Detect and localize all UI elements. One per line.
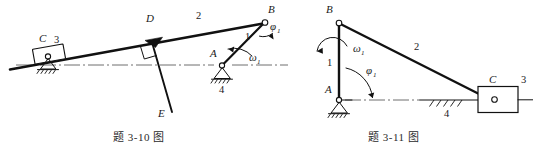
left-label-b: B bbox=[268, 3, 275, 15]
left-label-link-2: 2 bbox=[196, 10, 201, 21]
left-label-c: C bbox=[39, 32, 47, 44]
right-label-omega1: ω 1 bbox=[353, 42, 365, 57]
mechanism-diagram-canvas: C 3 D 2 B 1 A 4 E ω 1 φ 1 bbox=[0, 0, 533, 160]
left-omega-arrowhead bbox=[229, 47, 235, 53]
right-label-a: A bbox=[324, 83, 332, 95]
left-support-triangle-a bbox=[214, 68, 230, 79]
right-mechanism-group: B 1 2 A C 3 4 ω 1 φ 1 bbox=[317, 3, 533, 119]
left-label-link-4: 4 bbox=[219, 84, 225, 95]
right-link-2-rod bbox=[340, 24, 490, 100]
left-label-e: E bbox=[157, 107, 165, 119]
left-ground-hatch-c bbox=[37, 70, 56, 74]
right-joint-c-pin bbox=[492, 97, 498, 103]
left-ground-hatch-a bbox=[211, 79, 230, 83]
right-label-link-1: 1 bbox=[327, 57, 332, 68]
right-ground-hatch-frame bbox=[430, 100, 463, 107]
left-joint-b-pin bbox=[262, 20, 268, 26]
right-support-triangle-a bbox=[331, 103, 347, 114]
right-joint-b-pin bbox=[336, 20, 342, 26]
right-label-b: B bbox=[326, 3, 333, 15]
right-label-phi1: φ 1 bbox=[366, 64, 377, 79]
right-label-c: C bbox=[489, 73, 497, 85]
right-label-link-2: 2 bbox=[414, 41, 419, 52]
caption-right-figure: 题 3-11 图 bbox=[368, 128, 419, 144]
left-label-a: A bbox=[209, 47, 217, 59]
caption-left-figure: 题 3-10 图 bbox=[113, 128, 165, 144]
svg-text:1: 1 bbox=[373, 71, 377, 79]
svg-text:ω: ω bbox=[353, 42, 361, 54]
left-link-de bbox=[153, 44, 173, 112]
svg-text:φ: φ bbox=[270, 20, 276, 32]
svg-text:1: 1 bbox=[361, 49, 365, 57]
svg-text:1: 1 bbox=[277, 27, 281, 35]
left-label-d: D bbox=[145, 12, 154, 24]
left-mechanism-group: C 3 D 2 B 1 A 4 E ω 1 φ 1 bbox=[10, 3, 288, 119]
right-label-link-4: 4 bbox=[444, 108, 450, 119]
right-slider-block-c bbox=[478, 87, 518, 113]
left-label-phi1: φ 1 bbox=[270, 20, 281, 35]
right-label-link-3: 3 bbox=[521, 74, 526, 85]
left-label-link-1: 1 bbox=[245, 31, 250, 42]
right-ground-hatch-a bbox=[328, 114, 347, 118]
left-label-link-3: 3 bbox=[54, 34, 59, 45]
left-label-omega1: ω 1 bbox=[249, 51, 261, 66]
svg-text:ω: ω bbox=[249, 51, 257, 63]
figure-root: C 3 D 2 B 1 A 4 E ω 1 φ 1 bbox=[0, 0, 533, 160]
svg-text:1: 1 bbox=[257, 58, 261, 66]
svg-text:φ: φ bbox=[366, 64, 372, 76]
right-phi-arrowhead bbox=[368, 92, 374, 98]
